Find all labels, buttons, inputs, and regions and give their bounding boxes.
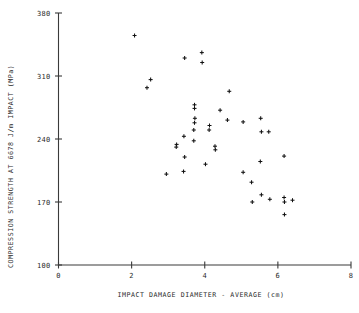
- data-point: [268, 197, 272, 201]
- data-point: [200, 51, 204, 55]
- y-tick-label: 310: [37, 73, 51, 81]
- data-point: [207, 128, 211, 132]
- data-point: [250, 200, 254, 204]
- data-point: [259, 130, 263, 134]
- data-point: [193, 116, 197, 120]
- data-point: [149, 78, 153, 82]
- data-point: [225, 118, 229, 122]
- y-tick-label: 240: [37, 136, 51, 144]
- data-point: [241, 120, 245, 124]
- data-point: [213, 148, 217, 152]
- data-point: [282, 213, 286, 217]
- data-point: [258, 160, 262, 164]
- data-point: [183, 155, 187, 159]
- data-point: [259, 193, 263, 197]
- data-point-group: [133, 34, 295, 217]
- x-tick-label: 6: [276, 272, 281, 280]
- data-point: [182, 169, 186, 173]
- data-point: [200, 61, 204, 65]
- data-point: [241, 170, 245, 174]
- scatter-plot-figure: COMPRESSION STRENGTH AT 6678 J/m IMPACT …: [0, 0, 359, 313]
- axes-group: [59, 13, 352, 265]
- data-point: [267, 130, 271, 134]
- data-point: [183, 56, 187, 60]
- data-point: [282, 196, 286, 200]
- data-point: [182, 134, 186, 138]
- data-point: [203, 162, 207, 166]
- x-tick-label: 8: [349, 272, 354, 280]
- data-point: [174, 145, 178, 149]
- y-tick-label: 100: [37, 262, 51, 270]
- y-tick-label: 170: [37, 199, 51, 207]
- data-point: [145, 86, 149, 90]
- data-point: [133, 34, 137, 38]
- data-point: [193, 103, 197, 107]
- data-point: [208, 124, 212, 128]
- data-point: [291, 198, 295, 202]
- data-point: [193, 106, 197, 110]
- x-tick-label: 0: [56, 272, 61, 280]
- y-axis-title: COMPRESSION STRENGTH AT 6678 J/m IMPACT …: [7, 65, 15, 268]
- data-point: [192, 139, 196, 143]
- data-point: [282, 154, 286, 158]
- x-tick-label: 2: [129, 272, 134, 280]
- data-point: [218, 108, 222, 112]
- data-point: [192, 128, 196, 132]
- chart-canvas: COMPRESSION STRENGTH AT 6678 J/m IMPACT …: [0, 0, 359, 313]
- data-point: [259, 116, 263, 120]
- data-point: [282, 200, 286, 204]
- y-tick-label: 380: [37, 10, 51, 18]
- data-point: [227, 89, 231, 93]
- x-tick-group: 02468: [56, 262, 353, 281]
- x-tick-label: 4: [202, 272, 207, 280]
- data-point: [250, 180, 254, 184]
- data-point: [164, 172, 168, 176]
- data-point: [193, 121, 197, 125]
- x-axis-title: IMPACT DAMAGE DIAMETER - AVERAGE (cm): [117, 291, 284, 299]
- data-point: [213, 144, 217, 148]
